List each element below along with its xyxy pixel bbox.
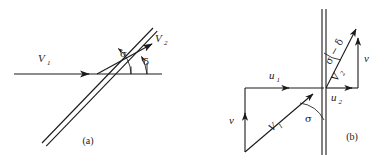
panel-a: V 1 V 2 σ δ (a) [14, 28, 168, 147]
label-v1-group-b: V 1 [266, 117, 285, 136]
panel-caption-b: (b) [346, 131, 358, 143]
label-v2-subscript-a: 2 [164, 39, 168, 47]
shock-wave-line-b [322, 9, 326, 155]
shock-wave-line-a [42, 28, 157, 146]
label-u2-subscript-b: 2 [339, 98, 343, 106]
figure-canvas: V 1 V 2 σ δ (a) [0, 0, 385, 161]
label-u1-b: u [269, 69, 275, 81]
label-v-upstream-b: v [229, 114, 234, 126]
label-v2-a: V [155, 32, 163, 44]
label-u1-subscript-b: 1 [277, 76, 281, 84]
label-v2-subscript-b: 2 [338, 70, 347, 77]
label-v1-subscript-a: 1 [47, 59, 51, 67]
label-sigma-a: σ [120, 48, 127, 59]
label-v2-group-b: V 2 [328, 66, 347, 84]
label-v-downstream-b: v [364, 52, 369, 64]
panel-b: u 1 u 2 v v V 1 V 2 σ σ − δ (b) [229, 9, 369, 155]
panel-caption-a: (a) [82, 135, 93, 147]
label-u2-b: u [331, 91, 337, 103]
wave-angle-arc-b [300, 103, 324, 120]
shock-wave-figure: V 1 V 2 σ δ (a) [0, 0, 385, 161]
label-v1-a: V [38, 52, 46, 64]
label-sigma-b: σ [305, 113, 312, 124]
label-delta-a: δ [143, 56, 149, 67]
